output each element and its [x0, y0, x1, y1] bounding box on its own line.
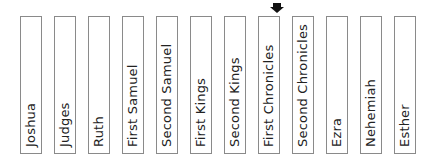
book-label: First Samuel	[125, 64, 140, 147]
book-label: Ruth	[91, 116, 106, 147]
book-first-samuel[interactable]: First Samuel	[122, 16, 144, 154]
book-label: Ezra	[329, 118, 344, 147]
book-second-kings[interactable]: Second Kings	[224, 16, 246, 154]
book-second-chronicles[interactable]: Second Chronicles	[292, 16, 314, 154]
book-esther[interactable]: Esther	[394, 16, 416, 154]
book-ezra[interactable]: Ezra	[326, 16, 348, 154]
book-first-kings[interactable]: First Kings	[190, 16, 212, 154]
book-label: Second Kings	[227, 57, 242, 147]
book-joshua[interactable]: Joshua	[20, 16, 42, 154]
book-first-chronicles[interactable]: First Chronicles	[258, 16, 280, 154]
book-label: First Kings	[193, 78, 208, 147]
book-label: Nehemiah	[363, 79, 378, 147]
arrow-head	[270, 7, 284, 13]
book-second-samuel[interactable]: Second Samuel	[156, 16, 178, 154]
book-nehemiah[interactable]: Nehemiah	[360, 16, 382, 154]
book-label: Second Chronicles	[295, 24, 310, 147]
book-judges[interactable]: Judges	[54, 16, 76, 154]
book-ruth[interactable]: Ruth	[88, 16, 110, 154]
book-label: First Chronicles	[261, 45, 276, 147]
book-label: Judges	[57, 102, 72, 147]
book-label: Esther	[397, 104, 412, 147]
book-label: Second Samuel	[159, 44, 174, 147]
book-label: Joshua	[23, 103, 38, 147]
